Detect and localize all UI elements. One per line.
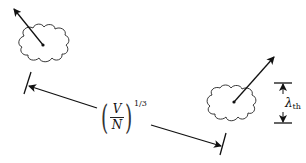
thermal-wavelength-label: λth <box>285 96 301 111</box>
spacing-arrow-right <box>151 125 221 146</box>
spacing-exponent: 1/3 <box>134 99 147 108</box>
left-velocity-arrow <box>14 9 43 45</box>
right-spacing-tick <box>220 133 226 155</box>
left-spacing-tick <box>24 72 31 94</box>
wavepacket-diagram <box>0 0 306 163</box>
lambda-symbol: λ <box>285 96 293 110</box>
spacing-numerator: V <box>109 102 125 116</box>
left-paren: ( <box>101 98 108 136</box>
lambda-subscript: th <box>293 102 301 111</box>
spacing-denominator: N <box>109 118 125 132</box>
left-wavepacket-cloud <box>19 24 69 62</box>
right-paren: ) <box>125 98 132 136</box>
spacing-label: ( V N ) 1/3 <box>100 98 148 138</box>
right-velocity-arrow <box>234 57 274 102</box>
right-wavepacket-cloud <box>207 85 256 121</box>
spacing-arrow-left <box>29 86 97 108</box>
